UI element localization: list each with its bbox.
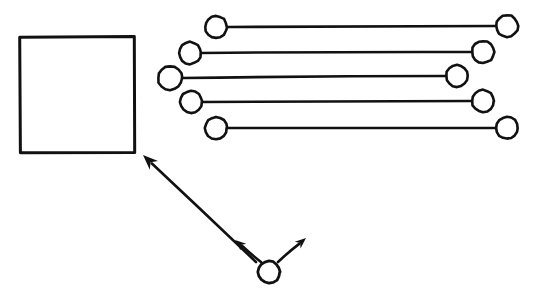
diagram-canvas — [0, 0, 538, 303]
dumbbell-row-2-connector — [201, 52, 472, 53]
dumbbell-row-4-connector — [202, 101, 472, 102]
sketch-surface — [0, 0, 538, 303]
dumbbell-row-1-connector — [227, 26, 496, 27]
